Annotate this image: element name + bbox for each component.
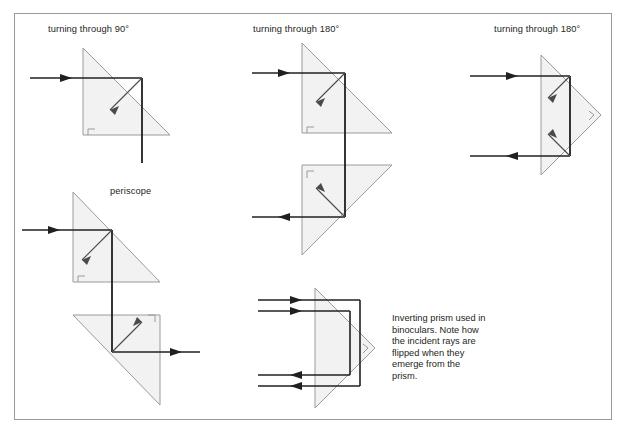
optics-diagram <box>0 0 629 435</box>
diagram-turning-90 <box>30 48 170 163</box>
prism-180-lower <box>302 165 392 255</box>
incident-ray-90-arrowhead <box>60 74 72 82</box>
diagram-turning-180-right <box>470 55 601 175</box>
prism-180-right <box>541 55 601 175</box>
label-turning-180-middle: turning through 180° <box>253 24 339 34</box>
figure-page: turning through 90° periscope turning th… <box>0 0 629 435</box>
prism-90-main <box>83 48 170 135</box>
label-periscope: periscope <box>110 186 151 196</box>
prism-inverting <box>315 288 375 408</box>
prism-periscope-upper <box>73 192 160 282</box>
emergent-ray-inverting-1-arrowhead <box>290 382 302 390</box>
emergent-ray-inverting-2-arrowhead <box>290 371 302 379</box>
emergent-ray-180-middle-arrowhead <box>278 213 290 221</box>
label-turning-90: turning through 90° <box>48 24 129 34</box>
incident-ray-inverting-2-arrowhead <box>290 307 302 315</box>
diagram-periscope <box>22 192 200 405</box>
caption-inverting-prism: Inverting prism used in binoculars. Note… <box>392 313 488 383</box>
incident-ray-180-middle-arrowhead <box>278 69 290 77</box>
prism-180-upper <box>302 43 392 133</box>
diagram-turning-180-middle <box>252 43 392 255</box>
incident-ray-180-right-arrowhead <box>506 72 518 80</box>
diagram-inverting-prism <box>258 288 375 408</box>
incident-ray-inverting-1-arrowhead <box>290 296 302 304</box>
incident-ray-periscope-arrowhead <box>48 226 60 234</box>
emergent-ray-180-right-arrowhead <box>506 152 518 160</box>
prism-periscope-lower <box>73 315 160 405</box>
emergent-ray-periscope-arrowhead <box>170 348 182 356</box>
label-turning-180-right: turning through 180° <box>494 24 580 34</box>
